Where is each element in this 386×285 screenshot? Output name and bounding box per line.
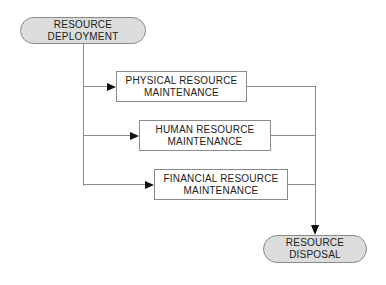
connector-exit-financial (288, 184, 315, 185)
node-label-line: DEPLOYMENT (48, 31, 119, 43)
arrowhead-right-icon (130, 132, 139, 140)
arrowhead-right-icon (107, 83, 116, 91)
connector-deployment-trunk (83, 44, 84, 186)
node-label-line: PHYSICAL RESOURCE (126, 75, 238, 87)
node-financial-resource-maintenance: FINANCIAL RESOURCE MAINTENANCE (154, 169, 288, 200)
connector-disposal-trunk (315, 86, 316, 225)
connector-branch-physical (83, 86, 107, 87)
connector-exit-physical (247, 86, 315, 87)
node-label-line: HUMAN RESOURCE (156, 124, 255, 136)
arrowhead-down-icon (311, 225, 319, 235)
node-physical-resource-maintenance: PHYSICAL RESOURCE MAINTENANCE (116, 71, 247, 102)
node-label-line: MAINTENANCE (184, 185, 259, 197)
node-resource-disposal: RESOURCE DISPOSAL (263, 235, 367, 263)
flowchart-canvas: RESOURCE DEPLOYMENT PHYSICAL RESOURCE MA… (0, 0, 386, 285)
connector-exit-human (271, 135, 315, 136)
node-label-line: MAINTENANCE (144, 87, 219, 99)
node-label-line: RESOURCE (54, 19, 112, 31)
node-human-resource-maintenance: HUMAN RESOURCE MAINTENANCE (139, 120, 271, 151)
node-label-line: FINANCIAL RESOURCE (164, 173, 279, 185)
connector-branch-human (83, 135, 130, 136)
node-resource-deployment: RESOURCE DEPLOYMENT (20, 17, 146, 44)
node-label-line: DISPOSAL (289, 249, 341, 261)
connector-branch-financial (83, 184, 145, 185)
arrowhead-right-icon (145, 181, 154, 189)
node-label-line: MAINTENANCE (168, 136, 243, 148)
node-label-line: RESOURCE (286, 237, 344, 249)
